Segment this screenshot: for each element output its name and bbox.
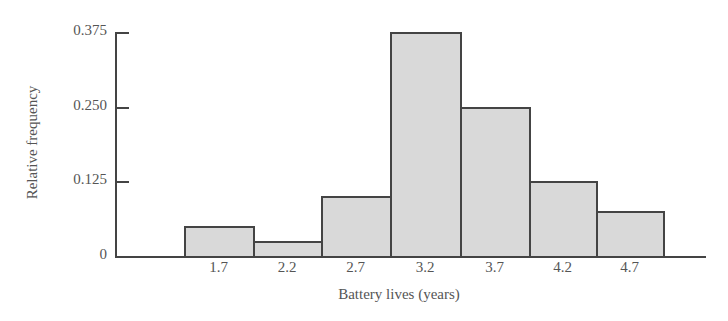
x-tick-label: 2.7 [326,259,386,276]
x-tick-label: 4.2 [533,259,593,276]
x-tick-label: 3.2 [395,259,455,276]
y-tick-mark [115,107,129,109]
y-tick-label: 0.250 [47,97,107,114]
bar-4.7 [596,211,665,258]
x-tick-label: 1.7 [189,259,249,276]
bar-3.2 [390,32,462,258]
x-axis-label: Battery lives (years) [0,286,728,303]
x-tick-label: 3.7 [465,259,525,276]
bar-1.7 [184,226,255,258]
y-tick-mark [115,32,129,34]
bar-3.7 [460,107,531,258]
y-tick-mark [115,181,129,183]
x-tick-label: 2.2 [257,259,317,276]
bar-2.2 [253,241,323,258]
y-axis-line [115,32,117,257]
y-axis-label: Relative frequency [24,63,41,223]
x-tick-label: 4.7 [600,259,660,276]
y-tick-label: 0.125 [47,171,107,188]
bar-4.2 [529,181,598,258]
histogram-chart: Relative frequency 00.1250.2500.375 1.72… [0,0,728,321]
y-tick-label: 0.375 [47,22,107,39]
y-tick-label: 0 [47,246,107,263]
bar-2.7 [321,196,392,258]
